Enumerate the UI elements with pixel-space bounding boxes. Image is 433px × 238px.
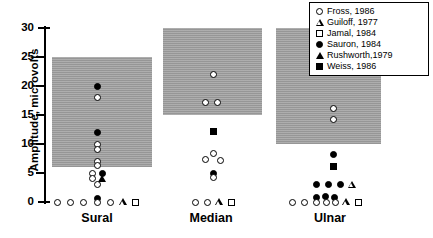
data-point xyxy=(210,150,217,157)
data-point xyxy=(132,199,139,206)
data-point xyxy=(107,199,114,206)
category-label-ulnar: Ulnar xyxy=(280,211,380,225)
legend-item-label: Weiss, 1986 xyxy=(327,61,376,72)
legend-item-label: Guiloff, 1977 xyxy=(327,17,378,28)
data-point xyxy=(210,174,217,181)
data-point xyxy=(67,199,74,206)
data-point xyxy=(330,163,337,170)
data-point xyxy=(301,199,308,206)
legend-item: Sauron, 1984 xyxy=(314,39,424,50)
data-point xyxy=(342,198,350,205)
data-point xyxy=(119,198,127,205)
y-axis-tick-10 xyxy=(36,143,45,145)
legend-marker-icon xyxy=(314,28,327,39)
data-point xyxy=(94,83,101,90)
category-label-median: Median xyxy=(161,211,261,225)
legend-marker-icon xyxy=(314,17,327,28)
data-point xyxy=(330,105,337,112)
data-point xyxy=(80,199,87,206)
data-point xyxy=(337,181,344,188)
data-point xyxy=(210,128,217,135)
legend-item: Fross, 1986 xyxy=(314,6,424,17)
data-point xyxy=(348,181,356,188)
data-point xyxy=(202,99,209,106)
y-axis-tick-20 xyxy=(36,85,45,87)
data-point xyxy=(210,71,217,78)
y-axis-tick-30 xyxy=(38,27,45,29)
data-point xyxy=(214,99,221,106)
legend-item: Weiss, 1986 xyxy=(314,61,424,72)
data-point xyxy=(94,129,101,136)
y-axis-tick-25 xyxy=(36,56,45,58)
data-point xyxy=(355,199,362,206)
data-point xyxy=(54,199,61,206)
data-point xyxy=(94,146,101,153)
scatter-plot-figure: Amplitude, microvolts 051015202530SuralM… xyxy=(0,0,433,238)
category-label-sural: Sural xyxy=(47,211,147,225)
y-axis-tick-label-20: 20 xyxy=(0,80,34,92)
data-point xyxy=(217,157,224,164)
data-point xyxy=(94,94,101,101)
y-axis-tick-label-0: 0 xyxy=(0,196,34,208)
y-axis-tick-label-30: 30 xyxy=(0,22,34,34)
data-point xyxy=(228,199,235,206)
legend-marker-icon xyxy=(314,50,327,61)
y-axis-tick-0 xyxy=(38,201,45,203)
legend-item: Guiloff, 1977 xyxy=(314,17,424,28)
legend-item-label: Rushworth,1979 xyxy=(327,50,393,61)
data-point xyxy=(192,199,199,206)
y-axis-tick-label-25: 25 xyxy=(0,51,34,63)
data-point xyxy=(332,199,339,206)
legend-item: Rushworth,1979 xyxy=(314,50,424,61)
legend-item-label: Fross, 1986 xyxy=(327,6,375,17)
y-axis-tick-label-15: 15 xyxy=(0,109,34,121)
y-axis-tick-label-10: 10 xyxy=(0,138,34,150)
chart-legend: Fross, 1986Guiloff, 1977Jamal, 1984Sauro… xyxy=(309,2,429,76)
data-point xyxy=(94,181,101,188)
legend-marker-icon xyxy=(314,39,327,50)
legend-item: Jamal, 1984 xyxy=(314,28,424,39)
data-point xyxy=(94,199,101,206)
y-axis-tick-15 xyxy=(36,114,45,116)
legend-item-label: Sauron, 1984 xyxy=(327,39,381,50)
normal-range-band-sural xyxy=(52,57,152,167)
data-point xyxy=(204,199,211,206)
data-point xyxy=(330,116,337,123)
legend-marker-icon xyxy=(314,6,327,17)
data-point xyxy=(313,181,320,188)
figure-caption xyxy=(44,232,424,238)
data-point xyxy=(325,181,332,188)
data-point xyxy=(323,199,330,206)
legend-marker-icon xyxy=(314,61,327,72)
legend-item-label: Jamal, 1984 xyxy=(327,28,376,39)
data-point xyxy=(330,151,337,158)
y-axis-tick-5 xyxy=(36,172,45,174)
data-point xyxy=(202,156,209,163)
data-point xyxy=(289,199,296,206)
data-point xyxy=(313,199,320,206)
y-axis-tick-label-5: 5 xyxy=(0,167,34,179)
data-point xyxy=(215,198,223,205)
data-point xyxy=(94,162,101,169)
